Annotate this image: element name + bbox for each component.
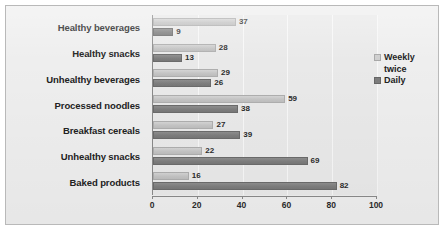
bar-daily <box>153 105 238 113</box>
axis-tick-mark <box>242 196 243 199</box>
bar-value-label: 59 <box>288 95 297 103</box>
bar-group: 1682 <box>153 169 377 195</box>
gridline <box>377 15 378 195</box>
bar-value-label: 22 <box>205 147 214 155</box>
bar-value-label: 28 <box>219 44 228 52</box>
bar-daily <box>153 157 308 165</box>
category-label: Unhealthy beverages <box>14 66 146 92</box>
bar-weekly-twice <box>153 69 218 77</box>
bar-value-label: 39 <box>243 131 252 139</box>
legend-item-daily: Daily <box>374 75 438 87</box>
axis-tick-label: 60 <box>282 200 291 210</box>
axis-tick-mark <box>197 196 198 199</box>
category-axis: Healthy beverages Healthy snacks Unhealt… <box>14 15 146 195</box>
bar-value-label: 26 <box>214 79 223 87</box>
bar-daily <box>153 131 240 139</box>
axis-tick-mark <box>331 196 332 199</box>
category-label: Unhealthy snacks <box>14 144 146 170</box>
bar-value-label: 38 <box>241 105 250 113</box>
bar-group: 2813 <box>153 41 377 67</box>
bar-weekly-twice <box>153 147 202 155</box>
bar-value-label: 9 <box>176 28 180 36</box>
bar-value-label: 27 <box>216 121 225 129</box>
axis-tick-mark <box>286 196 287 199</box>
bar-daily <box>153 54 182 62</box>
axis-tick-label: 40 <box>237 200 246 210</box>
chart-legend: Weekly twice Daily <box>374 52 438 87</box>
bar-daily <box>153 79 211 87</box>
axis-tick-label: 100 <box>369 200 383 210</box>
bar-group: 2926 <box>153 66 377 92</box>
bar-group: 2269 <box>153 144 377 170</box>
category-label: Healthy beverages <box>14 15 146 41</box>
chart-screenshot: Healthy beverages Healthy snacks Unhealt… <box>0 0 444 230</box>
axis-tick-mark <box>376 196 377 199</box>
bar-weekly-twice <box>153 44 216 52</box>
value-axis: 020406080100 <box>152 196 376 210</box>
bar-weekly-twice <box>153 121 213 129</box>
axis-tick-mark <box>152 196 153 199</box>
category-label: Baked products <box>14 169 146 195</box>
bar-group: 2739 <box>153 118 377 144</box>
axis-tick-label: 0 <box>150 200 155 210</box>
axis-tick-label: 20 <box>192 200 201 210</box>
axis-tick-label: 80 <box>326 200 335 210</box>
bar-value-label: 29 <box>221 69 230 77</box>
chart-frame: Healthy beverages Healthy snacks Unhealt… <box>5 5 439 225</box>
bar-weekly-twice <box>153 172 189 180</box>
bar-group: 379 <box>153 15 377 41</box>
legend-swatch-weekly-icon <box>374 54 381 61</box>
legend-item-weekly-twice: Weekly twice <box>374 52 438 75</box>
category-label: Healthy snacks <box>14 41 146 67</box>
legend-label: Daily <box>384 75 406 87</box>
bar-value-label: 16 <box>192 172 201 180</box>
bar-daily <box>153 182 337 190</box>
category-label: Breakfast cereals <box>14 118 146 144</box>
bar-value-label: 37 <box>239 18 248 26</box>
bar-group: 5938 <box>153 92 377 118</box>
plot-area: 379281329265938273922691682 <box>152 15 377 195</box>
bar-weekly-twice <box>153 95 285 103</box>
bar-weekly-twice <box>153 18 236 26</box>
bar-value-label: 13 <box>185 54 194 62</box>
category-label: Processed noodles <box>14 92 146 118</box>
axis-line <box>152 196 376 197</box>
bar-value-label: 69 <box>311 157 320 165</box>
legend-label: Weekly twice <box>384 52 415 75</box>
legend-swatch-daily-icon <box>374 77 381 84</box>
bar-value-label: 82 <box>340 182 349 190</box>
bar-daily <box>153 28 173 36</box>
